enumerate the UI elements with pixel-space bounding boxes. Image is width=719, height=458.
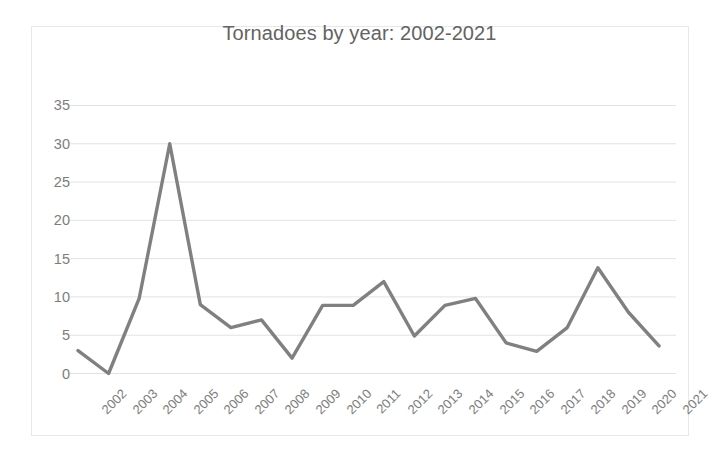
x-axis-tick-label: 2006 bbox=[221, 386, 252, 417]
x-axis-tick-label: 2007 bbox=[251, 386, 282, 417]
x-axis-tick-label: 2014 bbox=[465, 386, 496, 417]
x-axis-tick-label: 2010 bbox=[343, 386, 374, 417]
x-axis-tick-label: 2008 bbox=[282, 386, 313, 417]
x-axis-tick-label: 2021 bbox=[679, 386, 710, 417]
x-axis-tick-label: 2002 bbox=[98, 386, 129, 417]
x-axis-tick-label: 2009 bbox=[313, 386, 344, 417]
x-axis-tick-label: 2003 bbox=[129, 386, 160, 417]
x-axis-tick-label: 2005 bbox=[190, 386, 221, 417]
x-axis-tick-label: 2011 bbox=[373, 386, 403, 416]
x-axis-tick-label: 2004 bbox=[160, 386, 191, 417]
x-axis-tick-label: 2020 bbox=[649, 386, 680, 417]
x-axis-tick-labels: 2002200320042005200620072008200920102011… bbox=[0, 0, 719, 458]
x-axis-tick-label: 2017 bbox=[557, 386, 588, 417]
x-axis-tick-label: 2012 bbox=[404, 386, 435, 417]
x-axis-tick-label: 2018 bbox=[588, 386, 619, 417]
x-axis-tick-label: 2013 bbox=[435, 386, 466, 417]
x-axis-tick-label: 2019 bbox=[618, 386, 649, 417]
x-axis-tick-label: 2016 bbox=[527, 386, 558, 417]
x-axis-tick-label: 2015 bbox=[496, 386, 527, 417]
